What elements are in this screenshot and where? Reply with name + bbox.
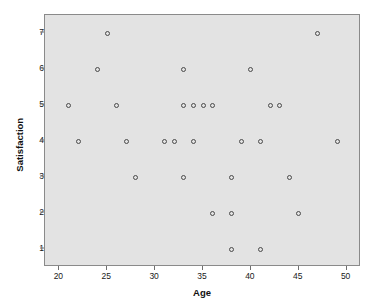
x-tick-mark [106,266,107,270]
data-point [258,247,263,252]
data-point [210,211,215,216]
data-point [181,67,186,72]
x-tick-label: 50 [334,272,358,281]
data-point [210,103,215,108]
data-points-layer [45,15,359,265]
y-tick-mark [40,68,44,69]
y-tick-mark [40,140,44,141]
x-axis-title: Age [44,288,360,298]
data-point [66,103,71,108]
data-point [287,175,292,180]
y-tick-mark [40,212,44,213]
data-point [76,139,81,144]
y-tick-mark [40,32,44,33]
data-point [229,211,234,216]
x-tick-mark [346,266,347,270]
x-tick-mark [154,266,155,270]
x-tick-label: 45 [286,272,310,281]
scatter-plot-figure: 1234567 20253035404550 Age Satisfaction [0,0,379,308]
data-point [172,139,177,144]
data-point [95,67,100,72]
x-tick-label: 20 [46,272,70,281]
data-point [335,139,340,144]
data-point [229,175,234,180]
data-point [277,103,282,108]
data-point [191,139,196,144]
y-tick-mark [40,176,44,177]
x-tick-mark [202,266,203,270]
data-point [229,247,234,252]
data-point [201,103,206,108]
data-point [239,139,244,144]
y-axis-title: Satisfaction [15,85,25,205]
data-point [248,67,253,72]
y-tick-mark [40,248,44,249]
y-tick-mark [40,104,44,105]
x-tick-label: 35 [190,272,214,281]
data-point [124,139,129,144]
plot-area [44,14,360,266]
data-point [181,175,186,180]
x-tick-label: 25 [94,272,118,281]
data-point [105,31,110,36]
data-point [133,175,138,180]
x-tick-label: 30 [142,272,166,281]
x-tick-mark [298,266,299,270]
data-point [258,139,263,144]
data-point [315,31,320,36]
x-tick-mark [58,266,59,270]
data-point [296,211,301,216]
data-point [191,103,196,108]
data-point [162,139,167,144]
x-tick-mark [250,266,251,270]
data-point [181,103,186,108]
x-tick-label: 40 [238,272,262,281]
data-point [268,103,273,108]
data-point [114,103,119,108]
